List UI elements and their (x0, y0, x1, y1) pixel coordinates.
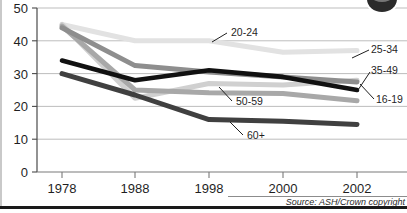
page-bottom-rule (0, 206, 407, 209)
x-label-2002: 2002 (343, 181, 372, 196)
series-label-16-19: 16-19 (376, 93, 403, 105)
series-label-60plus: 60+ (247, 129, 265, 141)
x-tick-marks (62, 172, 357, 178)
y-axis-labels: 50 40 30 20 10 0 (14, 1, 28, 180)
y-label-30: 30 (14, 67, 28, 82)
y-label-0: 0 (21, 165, 28, 180)
y-label-10: 10 (14, 132, 28, 147)
series-label-50-59: 50-59 (236, 95, 263, 107)
y-label-20: 20 (14, 99, 28, 114)
x-label-1998: 1998 (195, 181, 224, 196)
y-label-50: 50 (14, 1, 28, 16)
x-label-2000: 2000 (269, 181, 298, 196)
chart-page: 50 40 30 20 10 0 1978 1988 1998 2000 200… (0, 0, 407, 213)
y-tick-marks (32, 8, 37, 172)
line-chart: 50 40 30 20 10 0 1978 1988 1998 2000 200… (0, 0, 407, 213)
series-label-35-49: 35-49 (371, 64, 398, 76)
y-label-40: 40 (14, 34, 28, 49)
x-label-1988: 1988 (121, 181, 150, 196)
x-label-1978: 1978 (48, 181, 77, 196)
x-axis-labels: 1978 1988 1998 2000 2002 (48, 181, 372, 196)
series-label-20-24: 20-24 (231, 26, 258, 38)
series-label-25-34: 25-34 (371, 43, 398, 55)
